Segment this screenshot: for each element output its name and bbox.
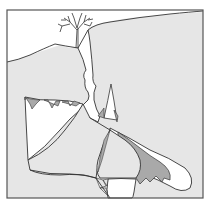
diagram-canvas: [0, 0, 209, 202]
bottom-chamber: [107, 179, 136, 199]
cave-cross-section-diagram: [0, 0, 209, 202]
